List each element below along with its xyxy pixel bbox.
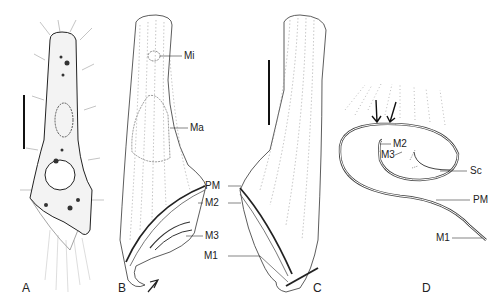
label-ma: Ma [190, 123, 204, 133]
label-m2-d: M2 [393, 139, 407, 149]
panel-d-oral-apparatus [340, 82, 486, 240]
panel-letter-a: A [22, 282, 30, 294]
label-m1-c: M1 [204, 251, 218, 261]
label-m3-b: M3 [205, 231, 219, 241]
panel-a-cell-drawing [20, 20, 104, 292]
panel-letter-b: B [118, 282, 126, 294]
label-m1-d: M1 [436, 233, 450, 243]
figure-canvas [0, 0, 498, 302]
panel-c-cell-drawing [240, 15, 326, 292]
panel-letter-d: D [422, 282, 431, 294]
label-pm-d: PM [473, 195, 488, 205]
label-mi: Mi [184, 51, 195, 61]
label-m2-b: M2 [205, 198, 219, 208]
label-m3-d: M3 [381, 150, 395, 160]
panel-letter-c: C [313, 282, 322, 294]
label-pm-b: PM [205, 181, 220, 191]
label-sc-d: Sc [470, 166, 482, 176]
